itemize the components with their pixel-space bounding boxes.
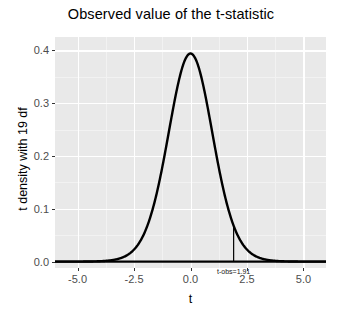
x-tick-label: 5.0 bbox=[296, 273, 311, 285]
x-tick-mark bbox=[191, 268, 192, 271]
density-curve-layer bbox=[55, 37, 326, 268]
plot-panel bbox=[55, 37, 326, 268]
x-tick-label: -2.5 bbox=[125, 273, 144, 285]
x-tick-label: -5.0 bbox=[68, 273, 87, 285]
chart-figure: Observed value of the t-statistic t-obs=… bbox=[0, 0, 342, 319]
chart-title: Observed value of the t-statistic bbox=[0, 6, 342, 22]
y-tick-label: 0.2 bbox=[34, 150, 49, 162]
x-tick-mark bbox=[247, 268, 248, 271]
x-tick-mark bbox=[303, 268, 304, 271]
y-tick-mark bbox=[52, 262, 55, 263]
y-tick-mark bbox=[52, 209, 55, 210]
x-axis-title: t bbox=[55, 292, 326, 306]
y-tick-mark bbox=[52, 156, 55, 157]
x-tick-label: 0.0 bbox=[183, 273, 198, 285]
x-tick-mark bbox=[134, 268, 135, 271]
x-tick-mark bbox=[78, 268, 79, 271]
density-curve bbox=[55, 54, 326, 262]
y-tick-label: 0.3 bbox=[34, 97, 49, 109]
y-tick-mark bbox=[52, 103, 55, 104]
y-axis-title: t density with 19 df bbox=[16, 84, 30, 234]
x-tick-label: 2.5 bbox=[239, 273, 254, 285]
y-tick-label: 0.1 bbox=[34, 203, 49, 215]
y-tick-mark bbox=[52, 50, 55, 51]
y-tick-label: 0.0 bbox=[34, 256, 49, 268]
y-tick-label: 0.4 bbox=[34, 44, 49, 56]
